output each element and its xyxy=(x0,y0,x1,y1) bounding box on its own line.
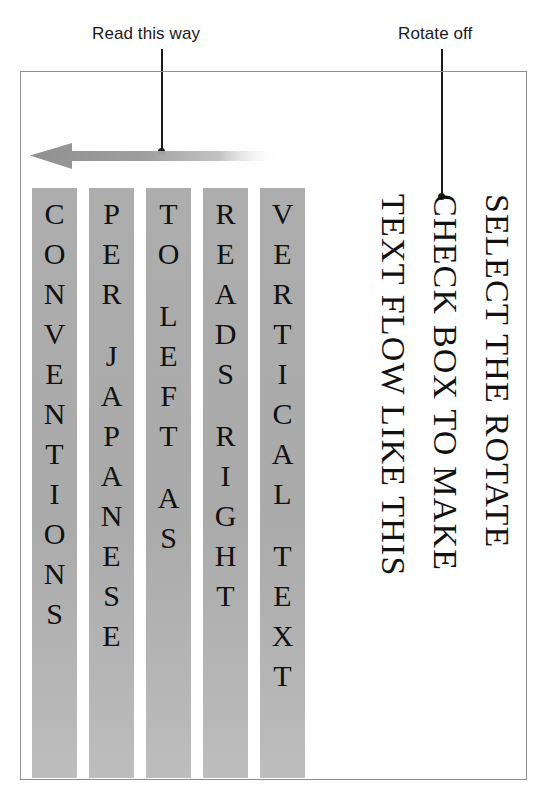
vertical-char: O xyxy=(158,234,180,274)
vertical-char: E xyxy=(102,234,120,274)
vertical-char: H xyxy=(215,536,237,576)
vertical-char: D xyxy=(215,314,237,354)
vertical-char: V xyxy=(44,314,66,354)
vertical-char: E xyxy=(273,576,291,616)
vertical-char: N xyxy=(44,554,66,594)
vertical-char: S xyxy=(46,594,63,634)
vertical-char: O xyxy=(44,514,66,554)
vertical-char: S xyxy=(160,518,177,558)
vertical-char: O xyxy=(44,234,66,274)
vertical-char: R xyxy=(272,274,292,314)
vertical-char: E xyxy=(273,234,291,274)
vertical-column-2-text: P E R J A P A N E S E xyxy=(89,194,134,656)
rotated-paragraph-line-3: TEXT FLOW LIKE THIS xyxy=(376,194,410,577)
vertical-char: C xyxy=(44,194,64,234)
vertical-char: N xyxy=(101,496,123,536)
vertical-char: S xyxy=(217,354,234,394)
vertical-char: A xyxy=(215,274,237,314)
vertical-char: A xyxy=(272,434,294,474)
vertical-char: T xyxy=(273,536,291,576)
vertical-char: E xyxy=(102,616,120,656)
vertical-char: N xyxy=(44,394,66,434)
vertical-char: G xyxy=(215,496,237,536)
vertical-char: N xyxy=(44,274,66,314)
vertical-char: E xyxy=(45,354,63,394)
vertical-char: T xyxy=(273,314,291,354)
vertical-char: R xyxy=(101,274,121,314)
vertical-column-5-text: V E R T I C A L T E X T xyxy=(260,194,305,696)
vertical-column-3: T O L E F T A S xyxy=(146,188,191,778)
vertical-char: R xyxy=(215,194,235,234)
arrow-shape xyxy=(30,143,282,169)
vertical-char: T xyxy=(159,416,177,456)
vertical-char: A xyxy=(101,456,123,496)
vertical-column-5: V E R T I C A L T E X T xyxy=(260,188,305,778)
vertical-char: J xyxy=(106,336,118,376)
vertical-char: I xyxy=(221,456,231,496)
vertical-char: S xyxy=(103,576,120,616)
callout-label-read-this-way: Read this way xyxy=(92,24,200,44)
vertical-char: E xyxy=(216,234,234,274)
vertical-char: P xyxy=(103,194,120,234)
rotated-paragraph: SELECT THE ROTATE CHECK BOX TO MAKE TEXT… xyxy=(330,190,530,760)
vertical-char: T xyxy=(45,434,63,474)
vertical-char: L xyxy=(273,474,291,514)
vertical-char: I xyxy=(50,474,60,514)
vertical-column-2: P E R J A P A N E S E xyxy=(89,188,134,778)
vertical-char: R xyxy=(215,416,235,456)
vertical-column-1: C O N V E N T I O N S xyxy=(32,188,77,778)
vertical-char: F xyxy=(160,376,177,416)
vertical-column-1-text: C O N V E N T I O N S xyxy=(32,194,77,634)
vertical-char: T xyxy=(159,194,177,234)
vertical-char: V xyxy=(272,194,294,234)
vertical-char: T xyxy=(216,576,234,616)
vertical-char: I xyxy=(278,354,288,394)
callout-label-rotate-off: Rotate off xyxy=(398,24,472,44)
vertical-char: A xyxy=(158,478,180,518)
rotated-paragraph-line-1: SELECT THE ROTATE xyxy=(480,194,514,549)
vertical-column-3-text: T O L E F T A S xyxy=(146,194,191,558)
gradient-arrow-svg xyxy=(30,142,282,170)
gradient-arrow-icon xyxy=(30,142,282,170)
vertical-char: P xyxy=(103,416,120,456)
vertical-char: A xyxy=(101,376,123,416)
vertical-column-4-text: R E A D S R I G H T xyxy=(203,194,248,616)
vertical-char: X xyxy=(272,616,294,656)
rotated-paragraph-line-2: CHECK BOX TO MAKE xyxy=(428,194,462,571)
vertical-char: C xyxy=(272,394,292,434)
vertical-char: T xyxy=(273,656,291,696)
vertical-char: L xyxy=(159,296,177,336)
vertical-column-4: R E A D S R I G H T xyxy=(203,188,248,778)
vertical-char: E xyxy=(159,336,177,376)
vertical-char: E xyxy=(102,536,120,576)
